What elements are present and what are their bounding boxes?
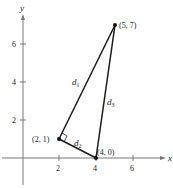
point-label: (4, 0): [97, 148, 115, 157]
point-label: (5, 7): [119, 21, 137, 30]
y-axis-arrow-icon: [21, 14, 25, 20]
segment-label-d1: d1: [72, 77, 80, 88]
x-tick-label: 6: [130, 164, 134, 173]
x-tick-label: 2: [56, 164, 60, 173]
y-tick-label: 6: [12, 40, 16, 49]
axes: [2, 20, 160, 185]
point-label: (2, 1): [32, 135, 50, 144]
segment-label-d2: d2: [74, 138, 82, 149]
point-5-7: [113, 23, 117, 27]
y-tick-label: 2: [12, 116, 16, 125]
coordinate-diagram: x y 2 4 6 2 4 6 (5, 7) (2, 1) (4, 0) d1 …: [0, 0, 173, 188]
y-tick-label: 4: [12, 78, 16, 87]
y-axis-label: y: [19, 3, 24, 13]
x-axis-arrow-icon: [160, 156, 166, 160]
x-axis-label: x: [167, 153, 172, 163]
x-tick-label: 4: [93, 164, 97, 173]
segment-label-d3: d3: [107, 97, 115, 108]
point-2-1: [57, 137, 61, 141]
